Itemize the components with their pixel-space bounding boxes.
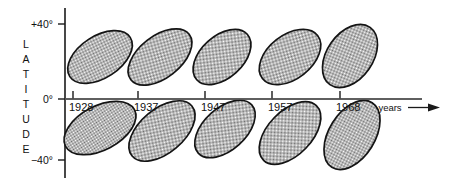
latitude-letter-1: L: [23, 38, 29, 50]
x-tick-label-1968: 1968: [336, 101, 360, 113]
figure-canvas: +40° 0° −40° L A T I T U D E 1928 1937 1…: [0, 0, 455, 184]
y-axis-title-latitude: L A T I T U D E: [22, 38, 30, 155]
sunspot-ellipse-north-1957: [249, 18, 331, 96]
sunspot-ellipse-north-1937: [118, 18, 202, 97]
latitude-letter-4: I: [25, 83, 28, 95]
x-tick-label-1928: 1928: [69, 101, 93, 113]
sunspot-ellipse-north-1928: [58, 20, 141, 94]
x-tick-label-1947: 1947: [201, 101, 225, 113]
sunspot-ellipse-north-1968: [311, 14, 389, 98]
latitude-letter-8: E: [22, 143, 29, 155]
right-arrow-icon: [408, 104, 440, 112]
x-axis-title-years: years: [378, 102, 401, 113]
latitude-letter-3: T: [23, 68, 30, 80]
x-tick-label-1937: 1937: [134, 101, 158, 113]
x-tick-label-1957: 1957: [268, 101, 292, 113]
latitude-letter-5: T: [23, 98, 30, 110]
y-tick-label-minus40: −40°: [31, 154, 53, 166]
y-tick-label-zero: 0°: [43, 93, 53, 105]
y-tick-label-plus40: +40°: [31, 18, 53, 30]
latitude-letter-6: U: [22, 113, 30, 125]
latitude-letter-7: D: [22, 128, 30, 140]
butterfly-diagram-svg: +40° 0° −40° L A T I T U D E 1928 1937 1…: [0, 0, 455, 184]
northern-ellipse-group: [58, 14, 389, 98]
sunspot-ellipse-north-1947: [183, 19, 262, 96]
latitude-letter-2: A: [22, 53, 29, 65]
